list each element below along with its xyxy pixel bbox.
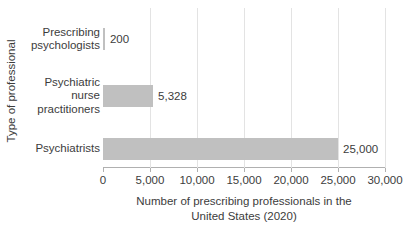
x-axis-title: Number of prescribing professionals in t… xyxy=(103,194,385,224)
bar-chart: Type of professional Prescribing psychol… xyxy=(0,0,420,238)
category-label: Psychiatrists xyxy=(22,142,100,156)
x-tick-label: 0 xyxy=(100,174,106,186)
gridline xyxy=(338,8,339,168)
bar-value-label: 25,000 xyxy=(343,138,378,160)
x-tick-label: 5,000 xyxy=(136,174,165,186)
plot-area: 2005,32825,000 xyxy=(103,8,385,168)
gridline xyxy=(385,8,386,168)
x-axis-tick xyxy=(385,168,386,172)
x-tick-label: 25,000 xyxy=(320,174,355,186)
x-axis-tick xyxy=(338,168,339,172)
bar xyxy=(103,28,105,50)
x-axis-tick xyxy=(103,168,104,172)
x-axis-tick xyxy=(291,168,292,172)
x-tick-label: 20,000 xyxy=(273,174,308,186)
category-label: Prescribing psychologists xyxy=(22,26,100,53)
category-label: Psychiatric nurse practitioners xyxy=(22,76,100,117)
category-axis-labels: Prescribing psychologistsPsychiatric nur… xyxy=(20,0,100,168)
x-axis-tick xyxy=(150,168,151,172)
x-tick-label: 15,000 xyxy=(226,174,261,186)
bar xyxy=(103,138,338,160)
x-axis-tick xyxy=(197,168,198,172)
x-tick-label: 30,000 xyxy=(367,174,402,186)
y-axis-title: Type of professional xyxy=(2,8,20,173)
x-axis-tick-labels: 05,00010,00015,00020,00025,00030,000 xyxy=(103,174,385,190)
y-axis-title-text: Type of professional xyxy=(5,39,17,142)
x-axis-tick xyxy=(244,168,245,172)
bar-value-label: 5,328 xyxy=(158,85,187,107)
bar-value-label: 200 xyxy=(110,28,129,50)
x-tick-label: 10,000 xyxy=(179,174,214,186)
bar xyxy=(103,85,153,107)
